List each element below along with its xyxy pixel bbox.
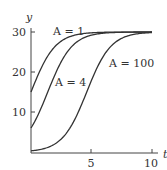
- x-axis-label: t: [163, 148, 167, 161]
- curve-a-100: [31, 33, 152, 151]
- y-axis-label: y: [25, 11, 33, 24]
- y-tick-label-30: 30: [12, 26, 26, 39]
- logistic-curves-chart: 30 20 10 5 10 y t A = 1 A = 4 A = 100: [0, 0, 167, 170]
- curve-label-a-100: A = 100: [108, 57, 154, 70]
- y-tick-label-20: 20: [12, 66, 26, 79]
- x-tick-label-5: 5: [88, 157, 95, 170]
- x-tick-label-10: 10: [144, 157, 158, 170]
- curve-label-a-1: A = 1: [52, 25, 84, 38]
- y-tick-label-10: 10: [12, 106, 26, 119]
- curve-label-a-4: A = 4: [54, 76, 86, 89]
